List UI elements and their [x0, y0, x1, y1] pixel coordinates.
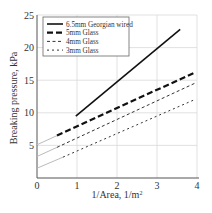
y-tick-labels: 510152025: [24, 10, 34, 151]
x-tick-label: 1: [75, 180, 80, 191]
y-tick-label: 25: [24, 10, 34, 21]
y-tick-label: 10: [24, 107, 34, 118]
legend: 6.5mm Georgian wired5mm Glass4mm Glass3m…: [43, 17, 133, 56]
legend-label: 6.5mm Georgian wired: [66, 21, 133, 29]
series-extrapolation-line: [37, 157, 63, 168]
x-tick-label: 0: [35, 180, 40, 191]
series-line-3: [63, 99, 196, 157]
legend-label: 5mm Glass: [66, 29, 99, 37]
series-extrapolation-line: [37, 136, 57, 145]
x-tick-label: 4: [195, 180, 200, 191]
x-tick-label: 3: [155, 180, 160, 191]
breaking-pressure-chart: 01234 510152025 1/Area, 1/m2 Breaking pr…: [0, 0, 212, 213]
y-tick-label: 20: [24, 42, 34, 53]
x-axis-label: 1/Area, 1/m2: [92, 189, 143, 200]
series-line-1: [57, 72, 195, 135]
y-axis-label: Breaking pressure, kPa: [8, 51, 19, 144]
legend-label: 4mm Glass: [66, 38, 99, 46]
y-tick-label: 5: [29, 140, 34, 151]
legend-label: 3mm Glass: [66, 47, 99, 55]
y-tick-label: 15: [24, 75, 34, 86]
series-extrapolation-line: [37, 147, 57, 156]
